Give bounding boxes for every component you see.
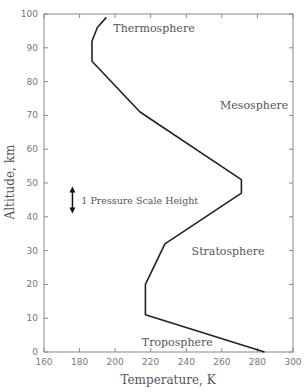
y-tick-label: 30 bbox=[27, 246, 39, 256]
layer-label-troposphere: Troposphere bbox=[142, 336, 213, 349]
y-axis-title: Altitude, km bbox=[3, 144, 17, 220]
y-tick-label: 0 bbox=[32, 347, 38, 357]
profile-line bbox=[92, 17, 265, 352]
y-tick-label: 10 bbox=[27, 313, 39, 323]
y-tick-label: 90 bbox=[27, 43, 39, 53]
layer-label-mesosphere: Mesosphere bbox=[220, 99, 288, 112]
plot-frame bbox=[44, 14, 293, 352]
y-tick-label: 50 bbox=[27, 178, 39, 188]
y-tick-label: 40 bbox=[27, 212, 39, 222]
x-tick-label: 220 bbox=[142, 357, 159, 367]
axis-ticks: 1601802002202402602803000102030405060708… bbox=[21, 9, 302, 367]
y-tick-label: 20 bbox=[27, 279, 39, 289]
x-tick-label: 280 bbox=[249, 357, 266, 367]
layer-label-stratosphere: Stratosphere bbox=[192, 245, 265, 258]
y-tick-label: 80 bbox=[27, 77, 39, 87]
x-tick-label: 200 bbox=[107, 357, 124, 367]
y-tick-label: 100 bbox=[21, 9, 38, 19]
temperature-profile-line bbox=[92, 17, 265, 352]
x-axis-title: Temperature, K bbox=[120, 373, 216, 387]
y-tick-label: 70 bbox=[27, 110, 39, 120]
temperature-altitude-chart: 1601802002202402602803000102030405060708… bbox=[0, 0, 308, 392]
arrow-up-icon bbox=[69, 186, 75, 192]
arrow-down-icon bbox=[69, 207, 75, 213]
plot-border bbox=[44, 14, 293, 352]
scale-height-label: 1 Pressure Scale Height bbox=[81, 195, 198, 206]
x-tick-label: 240 bbox=[178, 357, 195, 367]
layer-annotations: ThermosphereMesosphereStratosphereTropos… bbox=[69, 22, 288, 349]
layer-label-thermosphere: Thermosphere bbox=[113, 22, 194, 35]
x-tick-label: 180 bbox=[71, 357, 88, 367]
x-tick-label: 160 bbox=[35, 357, 52, 367]
x-tick-label: 300 bbox=[284, 357, 301, 367]
x-tick-label: 260 bbox=[213, 357, 230, 367]
y-tick-label: 60 bbox=[27, 144, 39, 154]
